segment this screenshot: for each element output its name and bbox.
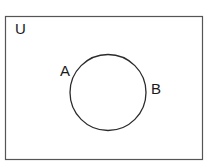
venn-diagram: U A B — [0, 0, 209, 162]
set-label-a: A — [60, 62, 70, 79]
universe-rectangle — [6, 17, 203, 160]
set-label-b: B — [151, 80, 161, 97]
universe-label: U — [15, 20, 26, 37]
